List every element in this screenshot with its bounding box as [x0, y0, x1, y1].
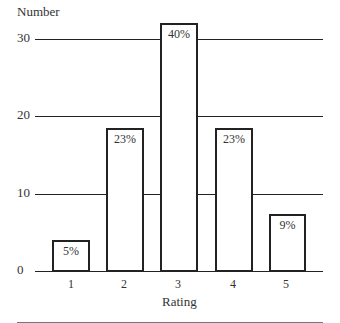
- x-tick-4: 4: [223, 277, 243, 292]
- x-tick-5: 5: [276, 277, 296, 292]
- x-tick-2: 2: [114, 277, 134, 292]
- bar-rating-4: 23%: [215, 128, 253, 272]
- bar-label: 40%: [162, 27, 196, 42]
- y-tick-10: 10: [17, 185, 31, 201]
- bar-label: 23%: [108, 132, 142, 147]
- x-tick-3: 3: [168, 277, 188, 292]
- bar-rating-2: 23%: [106, 128, 144, 272]
- y-tick-20: 20: [17, 107, 31, 123]
- y-tick-0: 0: [17, 262, 31, 278]
- bar-rating-3: 40%: [160, 23, 198, 272]
- bar-label: 9%: [271, 218, 304, 233]
- bar-rating-5: 9%: [269, 214, 306, 272]
- y-tick-30: 30: [17, 30, 31, 46]
- bar-label: 23%: [217, 132, 251, 147]
- x-tick-1: 1: [61, 277, 81, 292]
- bar-label: 5%: [54, 244, 88, 259]
- y-axis-label: Number: [17, 4, 60, 20]
- bar-rating-1: 5%: [52, 240, 90, 272]
- x-axis-label: Rating: [162, 294, 197, 310]
